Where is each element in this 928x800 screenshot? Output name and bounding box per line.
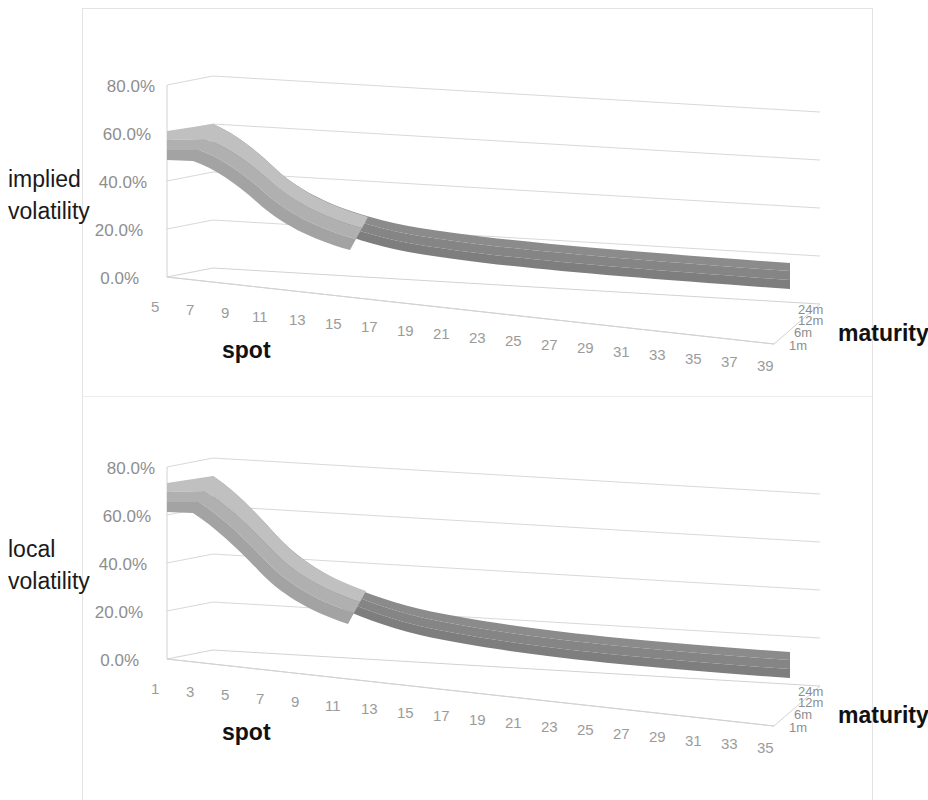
x-tick-label: 21 [505, 714, 522, 731]
x-tick-label: 33 [649, 346, 666, 363]
panel-local-volatility: 80.0% 60.0% 40.0% 20.0% 0.0% 1 3 5 7 9 1… [0, 400, 928, 800]
x-tick-label: 19 [397, 322, 414, 339]
x-tick-label: 31 [685, 732, 702, 749]
x-tick-label: 7 [256, 690, 264, 707]
x-tick-label: 11 [252, 308, 268, 325]
y-axis-title: maturity [838, 320, 928, 346]
x-tick-label: 25 [505, 332, 522, 349]
x-tick-label: 33 [721, 735, 738, 752]
z-tick-label: 40.0% [99, 173, 147, 192]
x-tick-label: 17 [433, 707, 450, 724]
z-axis-title-line1: implied [8, 166, 81, 192]
z-tick-labels-local: 80.0% 60.0% 40.0% 20.0% 0.0% [95, 459, 155, 670]
x-tick-label: 23 [541, 718, 558, 735]
x-tick-label: 23 [469, 329, 486, 346]
x-tick-label: 19 [469, 711, 486, 728]
x-tick-label: 15 [325, 315, 342, 332]
x-tick-label: 3 [186, 683, 194, 700]
x-tick-label: 25 [577, 721, 594, 738]
y-tick-labels-local: 24m 12m 6m 1m [789, 684, 823, 735]
x-tick-label: 39 [757, 357, 774, 374]
x-tick-label: 27 [541, 336, 558, 353]
x-tick-label: 5 [221, 686, 229, 703]
surface-implied [167, 124, 790, 289]
x-tick-label: 29 [577, 339, 594, 356]
z-tick-label: 0.0% [100, 651, 139, 670]
x-tick-label: 13 [289, 311, 306, 328]
y-tick-label: 1m [789, 338, 807, 353]
x-axis-title: spot [222, 337, 271, 363]
y-tick-label: 1m [789, 720, 807, 735]
z-tick-label: 60.0% [103, 125, 151, 144]
z-tick-label: 40.0% [99, 555, 147, 574]
z-tick-labels-implied: 80.0% 60.0% 40.0% 20.0% 0.0% [95, 77, 155, 288]
z-tick-label: 0.0% [100, 269, 139, 288]
x-tick-label: 17 [361, 318, 378, 335]
x-tick-label: 31 [613, 343, 630, 360]
y-axis-title: maturity [838, 702, 928, 728]
x-tick-label: 5 [151, 298, 159, 315]
z-tick-label: 80.0% [107, 459, 155, 478]
x-tick-label: 1 [151, 680, 159, 697]
panel-implied-volatility: 80.0% 60.0% 40.0% 20.0% 0.0% 5 7 9 11 13… [0, 0, 928, 400]
x-tick-label: 9 [291, 693, 299, 710]
x-tick-label: 37 [721, 353, 738, 370]
x-tick-label: 9 [221, 304, 229, 321]
figure-root: 80.0% 60.0% 40.0% 20.0% 0.0% 5 7 9 11 13… [0, 0, 928, 800]
x-tick-label: 29 [649, 728, 666, 745]
x-tick-label: 35 [685, 350, 702, 367]
z-tick-label: 20.0% [95, 221, 143, 240]
z-axis-title-line1: local [8, 536, 55, 562]
y-tick-labels-implied: 24m 12m 6m 1m [789, 302, 823, 353]
x-tick-label: 13 [361, 700, 378, 717]
chart-implied-volatility: 80.0% 60.0% 40.0% 20.0% 0.0% 5 7 9 11 13… [0, 0, 928, 400]
x-axis-title: spot [222, 719, 271, 745]
x-tick-label: 21 [433, 325, 450, 342]
z-tick-label: 60.0% [103, 507, 151, 526]
z-tick-label: 80.0% [107, 77, 155, 96]
x-tick-label: 15 [397, 704, 414, 721]
chart-local-volatility: 80.0% 60.0% 40.0% 20.0% 0.0% 1 3 5 7 9 1… [0, 400, 928, 800]
x-tick-label: 35 [757, 739, 774, 756]
x-tick-label: 7 [186, 301, 194, 318]
x-tick-label: 27 [613, 725, 630, 742]
x-tick-label: 11 [325, 697, 341, 714]
surface-local [167, 476, 790, 678]
z-axis-title-line2: volatility [8, 198, 90, 224]
z-axis-title-line2: volatility [8, 568, 90, 594]
z-tick-label: 20.0% [95, 603, 143, 622]
